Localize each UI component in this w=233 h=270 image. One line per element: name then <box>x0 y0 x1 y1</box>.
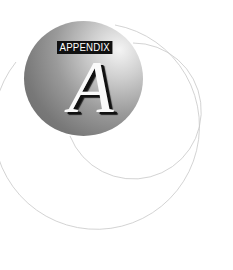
appendix-letter: A <box>61 52 121 122</box>
